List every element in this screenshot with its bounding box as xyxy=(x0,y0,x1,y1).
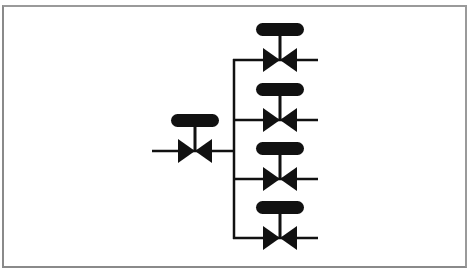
branch-valve-4-icon xyxy=(256,201,304,250)
branch-valve-3-icon xyxy=(256,142,304,191)
valve-diagram xyxy=(0,0,471,272)
branch-valve-2-icon xyxy=(256,83,304,132)
branch-valve-1-icon xyxy=(256,23,304,72)
inlet-valve-icon xyxy=(171,114,219,163)
